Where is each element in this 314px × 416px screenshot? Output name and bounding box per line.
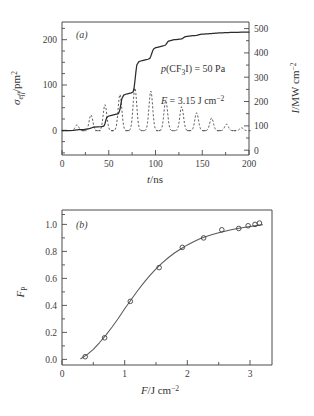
panel-a-data-layer xyxy=(62,32,251,131)
panel-b: 0.0 0.2 0.4 0.6 0.8 1.0 FP 0 1 xyxy=(0,200,314,416)
panel-a-tag: (a) xyxy=(76,29,88,41)
panel-a-x-ticks xyxy=(62,150,249,155)
panel-b-ytick-04: 0.4 xyxy=(45,301,57,311)
figure-container: 0 100 200 σeff/pm2 xyxy=(0,0,314,416)
panel-b-ytick-06: 0.6 xyxy=(45,274,57,284)
panel-a-xtick-100: 100 xyxy=(148,159,163,169)
panel-a-yaxis-left-title: σeff/pm2 xyxy=(10,71,25,105)
panel-a-xtick-0: 0 xyxy=(60,159,65,169)
annotation-pressure: p(CF3I) = 50 Pa xyxy=(160,63,226,77)
panel-a-ytick-right-0: 0 xyxy=(254,146,259,156)
panel-b-xtick-0: 0 xyxy=(60,369,65,379)
panel-b-xtick-1: 1 xyxy=(122,369,127,379)
panel-b-ytick-10: 1.0 xyxy=(45,220,57,230)
panel-a-ytick-right-300: 300 xyxy=(254,73,269,83)
panel-a-ytick-right-400: 400 xyxy=(254,48,269,58)
panel-a-left-ticks xyxy=(62,28,67,152)
panel-a: 0 100 200 σeff/pm2 xyxy=(0,0,314,205)
cross-section-trace xyxy=(62,32,249,131)
panel-b-ytick-0: 0.0 xyxy=(45,355,57,365)
panel-b-yaxis-title: FP xyxy=(14,287,29,299)
panel-b-svg-main: 0.0 0.2 0.4 0.6 0.8 1.0 FP 0 1 xyxy=(0,200,314,416)
panel-a-ytick-right-500: 500 xyxy=(254,24,269,34)
panel-b-x-ticks xyxy=(62,360,250,365)
panel-a-xtick-50: 50 xyxy=(104,159,114,169)
annotation-fluence: F = 3.15 J cm−2 xyxy=(160,94,225,107)
panel-b-frame xyxy=(62,210,272,365)
panel-b-xaxis-title: F/J cm−2 xyxy=(140,384,179,397)
panel-b-xtick-2: 2 xyxy=(185,369,190,379)
panel-b-y-ticks xyxy=(62,215,67,360)
panel-a-ytick-right-100: 100 xyxy=(254,121,269,131)
panel-a-right-ticks xyxy=(244,29,249,151)
panel-a-svg: 0 100 200 σeff/pm2 xyxy=(0,0,314,205)
svg-text:σeff/pm2: σeff/pm2 xyxy=(10,71,25,105)
panel-a-ytick-200: 200 xyxy=(43,35,58,45)
panel-a-yaxis-right-title: I/MW cm−2 xyxy=(289,62,302,114)
panel-b-ytick-08: 0.8 xyxy=(45,247,57,257)
panel-a-xtick-200: 200 xyxy=(242,159,257,169)
panel-a-ytick-0: 0 xyxy=(52,126,57,136)
panel-b-xtick-3: 3 xyxy=(248,369,253,379)
svg-text:FP: FP xyxy=(14,287,29,299)
data-point xyxy=(257,221,262,226)
panel-a-ytick-right-200: 200 xyxy=(254,97,269,107)
svg-text:I/MW cm−2: I/MW cm−2 xyxy=(289,62,302,114)
fitted-curve xyxy=(81,225,263,359)
panel-a-frame xyxy=(62,22,249,155)
data-markers xyxy=(83,221,262,359)
panel-b-data-layer xyxy=(81,221,263,359)
panel-b-ytick-02: 0.2 xyxy=(45,328,57,338)
panel-b-tag: (b) xyxy=(76,219,88,231)
panel-a-ytick-100: 100 xyxy=(43,80,58,90)
panel-a-xaxis-title: t/ns xyxy=(147,173,163,185)
panel-a-xtick-150: 150 xyxy=(195,159,210,169)
